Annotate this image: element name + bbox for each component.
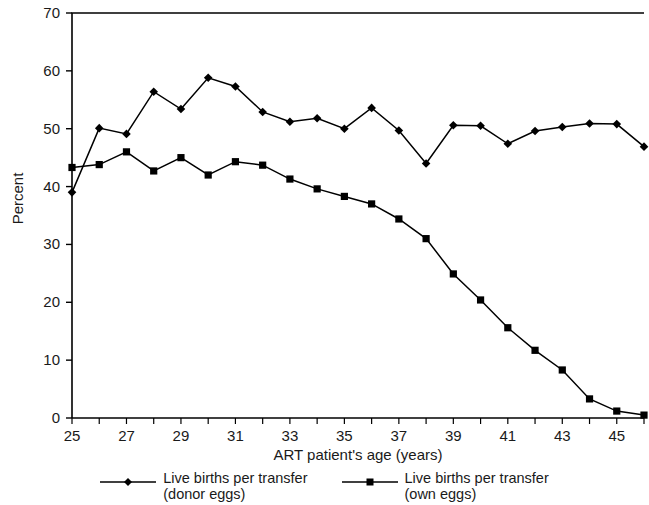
plot-canvas xyxy=(0,0,649,505)
series-own-eggs xyxy=(68,148,647,418)
series-donor-eggs xyxy=(68,74,649,197)
square-marker-icon xyxy=(342,477,398,487)
data-series-layer xyxy=(68,74,649,419)
axis-ticks xyxy=(66,13,644,424)
chart-figure: Percent 706050403020100 2527293133353739… xyxy=(0,0,649,505)
x-axis-title: ART patient's age (years) xyxy=(72,446,644,463)
legend-label-donor-eggs: Live births per transfer (donor eggs) xyxy=(163,470,307,502)
legend-label-own-eggs: Live births per transfer (own eggs) xyxy=(405,470,549,502)
chart-legend: Live births per transfer (donor eggs) Li… xyxy=(0,470,649,502)
legend-entry-own-eggs: Live births per transfer (own eggs) xyxy=(342,470,549,502)
diamond-marker-icon xyxy=(100,477,156,487)
legend-entry-donor-eggs: Live births per transfer (donor eggs) xyxy=(100,470,307,502)
plot-frame xyxy=(72,13,644,418)
